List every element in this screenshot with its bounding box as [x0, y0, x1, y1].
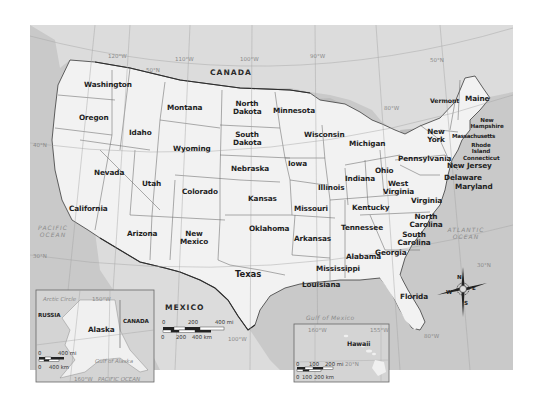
- state-kansas: Kansas: [248, 195, 277, 203]
- state-nebraska: Nebraska: [231, 165, 269, 173]
- state-south-carolina: South Carolina: [396, 231, 432, 247]
- hawaii-scale-mi-200: 200 mi: [325, 361, 343, 367]
- alaska-label-arctic: Arctic Circle: [43, 295, 76, 303]
- compass-n: N: [457, 274, 462, 280]
- state-new-jersey: New Jersey: [447, 162, 492, 170]
- state-indiana: Indiana: [345, 175, 375, 183]
- scale-km-200: 200: [176, 334, 186, 340]
- gridlabel-80w: 80°W: [384, 104, 399, 112]
- alaska-label-gulf: Gulf of Alaska: [95, 357, 133, 365]
- state-nevada: Nevada: [94, 169, 124, 177]
- alaska-label-lon2: 160°W: [74, 375, 93, 383]
- state-colorado: Colorado: [182, 188, 218, 196]
- state-new-york: New York: [424, 128, 448, 144]
- alaska-scale-mi-400: 400 mi: [58, 350, 76, 356]
- scale-mi-200: 200: [188, 319, 198, 325]
- us-map: CANADA MEXICO PACIFIC OCEAN ATLANTIC OCE…: [0, 0, 536, 394]
- state-kentucky: Kentucky: [352, 204, 390, 212]
- state-vermont: Vermont: [430, 98, 459, 104]
- state-arizona: Arizona: [127, 230, 157, 238]
- compass-e: E: [472, 285, 476, 291]
- alaska-label-canada: CANADA: [123, 318, 149, 324]
- state-missouri: Missouri: [294, 205, 328, 213]
- scale-mi-0: 0: [162, 319, 165, 325]
- label-canada: CANADA: [210, 69, 252, 77]
- state-iowa: Iowa: [288, 160, 307, 168]
- state-texas: Texas: [235, 270, 261, 278]
- state-idaho: Idaho: [129, 129, 152, 137]
- hawaii-scale-km-100: 100: [302, 374, 312, 380]
- state-wyoming: Wyoming: [173, 145, 211, 153]
- state-maine: Maine: [465, 95, 489, 103]
- hawaii-scale-km-200: 200 km: [314, 374, 334, 380]
- state-utah: Utah: [142, 180, 161, 188]
- state-illinois: Illinois: [318, 184, 344, 192]
- alaska-title: Alaska: [88, 326, 115, 334]
- state-north-carolina: North Carolina: [408, 213, 444, 229]
- state-delaware: Delaware: [444, 174, 482, 182]
- hawaii-scale-mi-0: 0: [296, 361, 299, 367]
- hawaii-title: Hawaii: [347, 340, 370, 348]
- state-south-dakota: South Dakota: [233, 131, 261, 147]
- state-florida: Florida: [400, 293, 428, 301]
- gridlabel-100w: 100°W: [240, 55, 259, 63]
- state-west-virginia: West Virginia: [383, 180, 413, 196]
- state-new-hampshire: New Hampshire: [469, 117, 505, 129]
- hawaii-label-lon2: 155°W: [370, 326, 389, 334]
- state-georgia: Georgia: [375, 249, 407, 257]
- gridlabel-90w: 90°W: [310, 52, 325, 60]
- gridlabel-30n-east: 30°N: [477, 261, 491, 269]
- label-pacific-ocean: PACIFIC OCEAN: [33, 224, 73, 238]
- compass-w: W: [446, 289, 452, 295]
- gridlabel-50n-east: 50°N: [430, 56, 444, 64]
- alaska-label-lon: 150°W: [92, 295, 111, 303]
- gridlabel-100w-south: 100°W: [228, 335, 247, 343]
- state-tennessee: Tennessee: [341, 224, 383, 232]
- state-mississippi: Mississippi: [316, 265, 360, 273]
- alaska-scale-mi-0: 0: [38, 350, 41, 356]
- hawaii-scale-mi-100: 100: [309, 361, 319, 367]
- compass-s: S: [464, 300, 468, 306]
- state-virginia: Virginia: [411, 197, 442, 205]
- gridlabel-110w: 110°W: [175, 55, 194, 63]
- state-maryland: Maryland: [455, 183, 493, 191]
- scale-km-0: 0: [161, 334, 164, 340]
- alaska-label-pacific: PACIFIC OCEAN: [98, 375, 140, 383]
- hawaii-label-lon1: 160°W: [308, 326, 327, 334]
- state-michigan: Michigan: [349, 140, 385, 148]
- state-ohio: Ohio: [375, 167, 394, 175]
- gridlabel-30n-west: 30°N: [33, 252, 47, 260]
- scale-mi-400: 400 mi: [215, 319, 233, 325]
- state-pennsylvania: Pennsylvania: [398, 155, 451, 163]
- state-new-mexico: New Mexico: [176, 230, 212, 246]
- gridlabel-80w-south: 80°W: [424, 332, 439, 340]
- state-massachusetts: Massachusetts: [452, 133, 495, 139]
- state-rhode-island: Rhode Island: [470, 142, 492, 154]
- label-gulf-of-mexico: Gulf of Mexico: [306, 314, 355, 321]
- alaska-scale-km-400: 400 km: [49, 364, 69, 370]
- state-arkansas: Arkansas: [294, 235, 331, 243]
- state-oklahoma: Oklahoma: [249, 225, 289, 233]
- hawaii-label-lat: 20°N: [345, 360, 359, 368]
- state-wisconsin: Wisconsin: [304, 131, 345, 139]
- state-minnesota: Minnesota: [273, 107, 315, 115]
- state-north-dakota: North Dakota: [233, 100, 261, 116]
- scale-km-400: 400 km: [192, 334, 212, 340]
- gridlabel-40n: 40°N: [33, 141, 47, 149]
- gridlabel-120w: 120°W: [108, 52, 127, 60]
- alaska-scale-km-0: 0: [38, 364, 41, 370]
- gridlabel-50n-west: 50°N: [146, 66, 160, 74]
- hawaii-scale-km-0: 0: [296, 374, 299, 380]
- state-oregon: Oregon: [79, 114, 109, 122]
- label-atlantic-ocean: ATLANTIC OCEAN: [445, 226, 487, 240]
- state-louisiana: Louisiana: [302, 281, 340, 289]
- state-montana: Montana: [167, 104, 202, 112]
- alaska-label-russia: RUSSIA: [38, 312, 60, 318]
- state-washington: Washington: [84, 81, 132, 89]
- state-california: California: [69, 205, 108, 213]
- label-mexico: MEXICO: [165, 304, 204, 312]
